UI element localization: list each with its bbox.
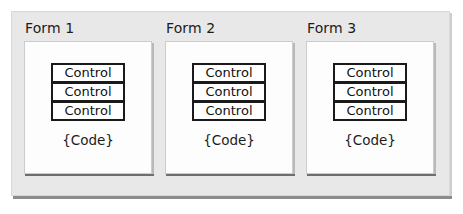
form-panel-shadow-right-1 (152, 43, 154, 174)
control-label: Control (206, 66, 253, 80)
control-box[interactable]: Control (192, 82, 266, 102)
form-panel-1[interactable]: Control Control Control {Code} (24, 41, 152, 174)
control-box[interactable]: Control (192, 63, 266, 83)
control-label: Control (65, 85, 112, 99)
form-panel-3[interactable]: Control Control Control {Code} (306, 41, 434, 174)
form-panel-shadow-right-2 (293, 43, 295, 174)
form-panel-shadow-2 (166, 174, 295, 176)
control-box[interactable]: Control (51, 101, 125, 121)
code-placeholder-3: {Code} (307, 132, 433, 148)
container-shadow-bottom (13, 196, 452, 199)
control-label: Control (65, 66, 112, 80)
form-title-3: Form 3 (307, 19, 356, 37)
form-panel-shadow-3 (307, 174, 436, 176)
control-box[interactable]: Control (192, 101, 266, 121)
controls-stack-2: Control Control Control (192, 63, 266, 120)
form-title-2: Form 2 (166, 19, 215, 37)
container-shadow-right (450, 13, 452, 198)
control-label: Control (65, 104, 112, 118)
forms-row: Form 1 Control Control Control {Code} (12, 12, 449, 195)
control-label: Control (206, 104, 253, 118)
form-panel-shadow-right-3 (434, 43, 436, 174)
form-panel-2[interactable]: Control Control Control {Code} (165, 41, 293, 174)
controls-stack-1: Control Control Control (51, 63, 125, 120)
controls-stack-3: Control Control Control (333, 63, 407, 120)
application-container: Form 1 Control Control Control {Code} (11, 11, 450, 196)
control-label: Control (347, 104, 394, 118)
control-box[interactable]: Control (51, 63, 125, 83)
control-label: Control (347, 66, 394, 80)
form-column-2[interactable]: Form 2 Control Control Control {Code} (163, 19, 301, 189)
form-column-3[interactable]: Form 3 Control Control Control {Code} (304, 19, 442, 189)
form-title-1: Form 1 (25, 19, 74, 37)
code-placeholder-2: {Code} (166, 132, 292, 148)
code-placeholder-1: {Code} (25, 132, 151, 148)
form-panel-shadow-1 (25, 174, 154, 176)
control-label: Control (206, 85, 253, 99)
control-box[interactable]: Control (51, 82, 125, 102)
control-label: Control (347, 85, 394, 99)
diagram-canvas: Form 1 Control Control Control {Code} (0, 0, 463, 214)
control-box[interactable]: Control (333, 63, 407, 83)
form-column-1[interactable]: Form 1 Control Control Control {Code} (22, 19, 160, 189)
control-box[interactable]: Control (333, 82, 407, 102)
control-box[interactable]: Control (333, 101, 407, 121)
